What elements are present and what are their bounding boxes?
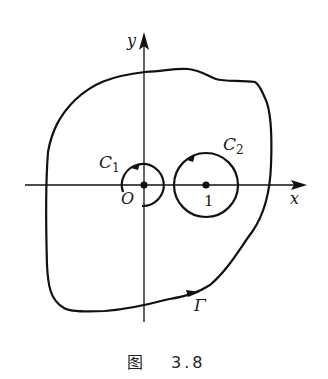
c2-label-subscript: 2 <box>236 143 244 157</box>
point-one <box>202 181 209 188</box>
c1-label-main: C <box>99 152 112 172</box>
c1-label: C1 <box>99 152 120 175</box>
y-axis-label: y <box>126 31 137 50</box>
gamma-label: Γ <box>193 295 207 315</box>
x-axis <box>25 180 307 190</box>
contour-diagram: y x O 1 C1 C2 Γ 图 3.8 <box>0 0 328 379</box>
figure-caption-number: 3.8 <box>171 353 205 372</box>
c2-label-main: C <box>223 134 236 154</box>
figure-caption-prefix: 图 <box>127 353 143 372</box>
origin-label: O <box>121 189 134 208</box>
y-axis <box>139 32 149 322</box>
x-axis-label: x <box>290 189 299 208</box>
point-one-label: 1 <box>204 192 214 210</box>
c2-label: C2 <box>223 134 244 157</box>
c1-label-subscript: 1 <box>112 161 120 175</box>
origin-point <box>140 181 147 188</box>
